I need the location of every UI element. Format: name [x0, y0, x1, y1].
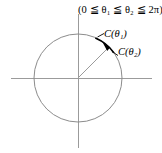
label-c-theta1: C(θ₁): [104, 29, 127, 40]
label-c-theta2-text: C(θ₂): [118, 46, 141, 57]
label-c-theta1-text: C(θ₁): [104, 28, 127, 39]
angle-range-condition: (0 ≦ θ₁ ≦ θ₂ ≦ 2π): [78, 5, 162, 16]
figure-canvas: [0, 0, 162, 153]
condition-text: (0 ≦ θ₁ ≦ θ₂ ≦ 2π): [78, 4, 162, 15]
label-c-theta2: C(θ₂): [118, 47, 141, 58]
circle-angle-figure: (0 ≦ θ₁ ≦ θ₂ ≦ 2π) C(θ₁) C(θ₂): [0, 0, 162, 153]
radius-line: [78, 47, 109, 78]
